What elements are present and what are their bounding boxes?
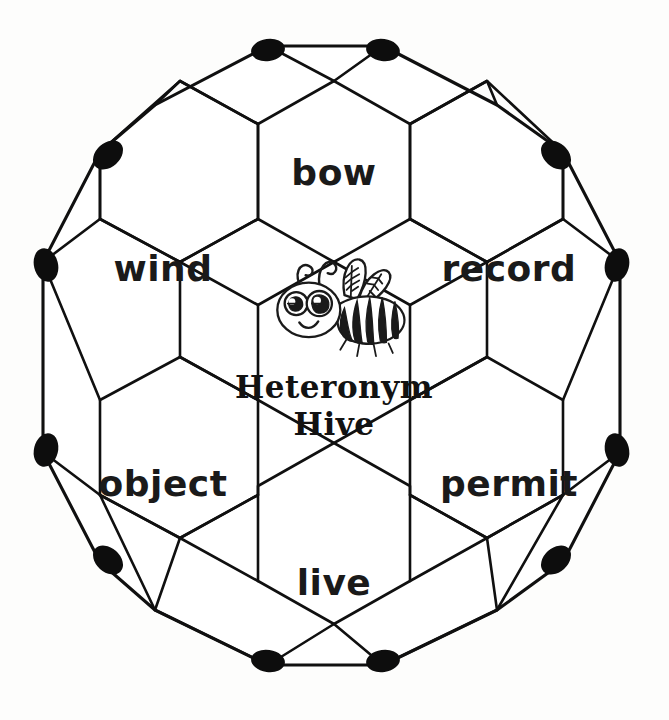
cell-label-record: record <box>442 248 577 289</box>
cell-label-wind: wind <box>114 248 213 289</box>
heteronym-hive-diagram: bow wind record object permit live Heter… <box>0 0 669 720</box>
cell-label-permit: permit <box>440 463 578 504</box>
cell-label-object: object <box>99 463 228 504</box>
brand-label-line2: Hive <box>294 406 375 442</box>
worksheet-canvas: bow wind record object permit live Heter… <box>0 0 669 720</box>
cell-label-bow: bow <box>291 152 376 193</box>
cell-label-live: live <box>297 562 372 603</box>
brand-label-line1: Heteronym <box>235 369 433 405</box>
